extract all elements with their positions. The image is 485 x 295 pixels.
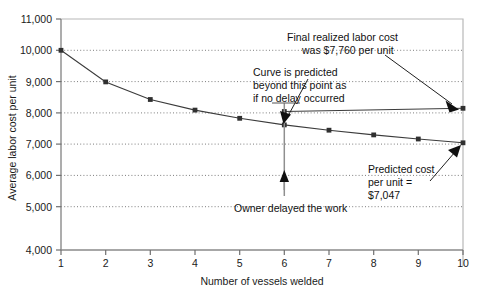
x-tick-label: 6 bbox=[281, 257, 287, 269]
data-point bbox=[327, 128, 332, 133]
data-point bbox=[148, 97, 153, 102]
final-cost-arrowhead bbox=[446, 101, 460, 113]
annotation-line: if no delay occurred bbox=[253, 92, 345, 104]
data-point bbox=[461, 106, 466, 111]
x-tick-label: 2 bbox=[103, 257, 109, 269]
y-axis-title: Average labor cost per unit bbox=[6, 75, 18, 200]
y-tick-label: 8,000 bbox=[26, 107, 52, 119]
annotation-line: $7,047 bbox=[368, 189, 400, 201]
final-cost-leader bbox=[385, 55, 452, 104]
data-point bbox=[237, 116, 242, 121]
owner-delay-arrowhead bbox=[280, 170, 289, 182]
y-tick-label: 11,000 bbox=[21, 13, 52, 25]
annotation-curve-note: Curve is predicted beyond this point as … bbox=[253, 66, 346, 104]
annotation-owner-delay: Owner delayed the work bbox=[234, 202, 348, 214]
annotation-line: was $7,760 per unit bbox=[301, 44, 394, 56]
chart-canvas: 11,000 10,000 9,000 8,000 7,000 6,000 5,… bbox=[0, 0, 485, 295]
annotation-line: per unit = bbox=[368, 176, 412, 188]
annotation-predicted-cost: Predicted cost per unit = $7,047 bbox=[368, 163, 435, 201]
annotation-line: Predicted cost bbox=[368, 163, 435, 175]
annotation-final-cost: Final realized labor cost was $7,760 per… bbox=[287, 31, 398, 56]
y-tick-label: 6,000 bbox=[26, 169, 52, 181]
y-tick-label: 5,000 bbox=[26, 201, 52, 213]
y-tick-labels: 11,000 10,000 9,000 8,000 7,000 6,000 5,… bbox=[20, 13, 52, 256]
annotation-line: Final realized labor cost bbox=[287, 31, 398, 43]
x-tick-label: 4 bbox=[192, 257, 198, 269]
x-tick-label: 9 bbox=[415, 257, 421, 269]
annotation-line: Curve is predicted bbox=[253, 66, 338, 78]
y-tick-label: 4,000 bbox=[26, 244, 52, 256]
x-tick-marks bbox=[61, 250, 463, 255]
y-tick-label: 10,000 bbox=[20, 44, 52, 56]
x-tick-label: 7 bbox=[326, 257, 332, 269]
annotation-line: beyond this point as bbox=[253, 79, 346, 91]
x-tick-label: 1 bbox=[58, 257, 64, 269]
x-tick-label: 8 bbox=[371, 257, 377, 269]
data-point bbox=[461, 140, 466, 145]
data-point bbox=[103, 80, 108, 85]
data-point bbox=[416, 137, 421, 142]
x-tick-label: 3 bbox=[147, 257, 153, 269]
data-point bbox=[193, 108, 198, 113]
plot-frame bbox=[61, 19, 463, 266]
data-point bbox=[59, 48, 64, 53]
x-axis-title: Number of vessels welded bbox=[200, 275, 323, 287]
y-tick-label: 9,000 bbox=[26, 76, 52, 88]
chart-figure: 11,000 10,000 9,000 8,000 7,000 6,000 5,… bbox=[0, 0, 485, 295]
data-point bbox=[371, 133, 376, 138]
x-tick-label: 5 bbox=[237, 257, 243, 269]
predicted-cost-arrowhead bbox=[448, 145, 461, 158]
y-tick-marks bbox=[56, 19, 61, 250]
series-line-actual bbox=[284, 108, 463, 111]
x-tick-labels: 1 2 3 4 5 6 7 8 9 10 bbox=[58, 257, 469, 269]
y-tick-label: 7,000 bbox=[26, 138, 52, 150]
x-tick-label: 10 bbox=[457, 257, 469, 269]
